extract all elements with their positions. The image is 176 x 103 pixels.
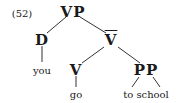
node-d: D: [35, 31, 49, 49]
leaf-to-school: to school: [123, 89, 169, 100]
branch-vbar-v: [82, 47, 104, 63]
node-v-bar: V: [105, 31, 118, 49]
node-v: V: [70, 61, 83, 79]
leaf-you: you: [33, 65, 51, 76]
leaf-go: go: [70, 89, 82, 100]
node-vp: VP: [61, 3, 86, 21]
node-pp: PP: [134, 61, 159, 79]
example-number: (52): [12, 8, 33, 19]
